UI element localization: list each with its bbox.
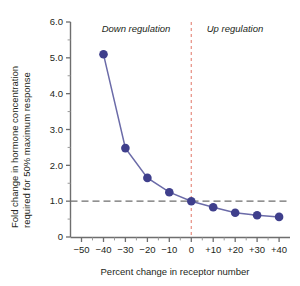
y-axis: 6.0 5.0 4.0 3.0 2.0 1.0 0 — [50, 16, 71, 242]
y-tick-label: 6.0 — [50, 16, 63, 27]
data-point — [253, 211, 262, 220]
x-tick-label: −50 — [73, 244, 89, 255]
x-tick-label: +10 — [205, 244, 221, 255]
x-axis-title: Percent change in receptor number — [101, 266, 250, 277]
data-point — [121, 144, 130, 153]
x-tick-label: +20 — [227, 244, 243, 255]
y-tick-label: 2.0 — [50, 160, 63, 171]
data-point — [165, 188, 174, 197]
y-axis-title-line1: Fold change in hormone concentration — [9, 66, 20, 228]
data-point — [209, 203, 218, 212]
data-point — [99, 50, 108, 59]
x-tick-label: −10 — [161, 244, 177, 255]
x-tick-label: −30 — [117, 244, 133, 255]
data-point — [143, 174, 152, 183]
y-tick-label: 5.0 — [50, 52, 63, 63]
x-tick-label: +40 — [271, 244, 287, 255]
y-tick-label: 0 — [58, 231, 63, 242]
x-tick-label: 0 — [189, 244, 194, 255]
y-tick-label: 3.0 — [50, 124, 63, 135]
chart-canvas: 6.0 5.0 4.0 3.0 2.0 1.0 0 — [0, 0, 300, 286]
y-tick-label: 4.0 — [50, 88, 63, 99]
data-point — [187, 197, 196, 206]
x-tick-label: −40 — [95, 244, 111, 255]
annotation-up-regulation: Up regulation — [207, 23, 264, 34]
x-axis: −50 −40 −30 −20 −10 0 +10 +20 +30 +40 — [71, 238, 291, 256]
data-point — [231, 208, 240, 217]
x-tick-label: +30 — [249, 244, 265, 255]
annotation-down-regulation: Down regulation — [102, 23, 171, 34]
data-points — [99, 50, 283, 221]
y-tick-label: 1.0 — [50, 195, 63, 206]
y-axis-title-line2: required for 50% maximum response — [21, 72, 32, 228]
x-tick-label: −20 — [139, 244, 155, 255]
data-point — [275, 213, 284, 222]
chart-figure: 6.0 5.0 4.0 3.0 2.0 1.0 0 — [0, 0, 300, 286]
